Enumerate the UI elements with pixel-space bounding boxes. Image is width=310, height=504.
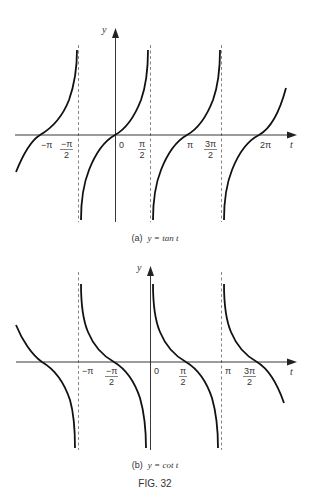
y-label-b: y <box>136 262 142 273</box>
caption-a-prefix: (a) <box>132 233 143 243</box>
t-label-b: t <box>290 366 293 377</box>
caption-b: (b) y = cot t <box>0 460 310 470</box>
svg-text:0: 0 <box>119 140 124 150</box>
svg-text:−π: −π <box>61 139 72 149</box>
svg-text:π: π <box>187 140 193 150</box>
panel-a-tan: y t −π −π 2 0 π 2 π 3π 2 2π <box>15 24 297 222</box>
svg-text:2π: 2π <box>260 140 271 150</box>
x-axis-arrow-b <box>287 359 297 366</box>
x-axis-arrow-a <box>287 132 297 139</box>
tick-labels-b: −π −π 2 0 π 2 π 3π 2 <box>82 366 256 387</box>
svg-text:2: 2 <box>208 150 213 160</box>
y-axis-arrow-a <box>112 28 119 38</box>
figure-label: FIG. 32 <box>0 478 310 489</box>
svg-text:−π: −π <box>106 366 117 376</box>
tick-labels-a: −π −π 2 0 π 2 π 3π 2 2π <box>41 139 271 160</box>
y-label-a: y <box>101 24 107 35</box>
caption-a: (a) y = tan t <box>0 233 310 243</box>
asymptotes-b <box>79 272 222 450</box>
svg-text:2: 2 <box>64 150 69 160</box>
svg-text:3π: 3π <box>205 139 216 149</box>
svg-text:π: π <box>139 139 145 149</box>
caption-a-equation: y = tan t <box>148 233 179 243</box>
caption-b-prefix: (b) <box>132 460 143 470</box>
svg-text:2: 2 <box>109 377 114 387</box>
svg-text:−π: −π <box>41 140 52 150</box>
svg-text:3π: 3π <box>244 366 255 376</box>
caption-b-equation: y = cot t <box>148 460 178 470</box>
svg-text:2: 2 <box>181 377 186 387</box>
asymptotes-a <box>79 45 222 222</box>
svg-text:π: π <box>225 366 231 376</box>
figure-canvas: y t −π −π 2 0 π 2 π 3π 2 2π <box>0 0 310 504</box>
svg-text:−π: −π <box>82 366 93 376</box>
y-axis-arrow-b <box>147 266 154 276</box>
svg-text:2: 2 <box>140 150 145 160</box>
t-label-a: t <box>290 139 293 150</box>
panel-b-cot: y t −π −π 2 0 π 2 π 3π 2 <box>16 262 297 450</box>
svg-text:2: 2 <box>247 377 252 387</box>
svg-text:π: π <box>180 366 186 376</box>
svg-text:0: 0 <box>154 366 159 376</box>
